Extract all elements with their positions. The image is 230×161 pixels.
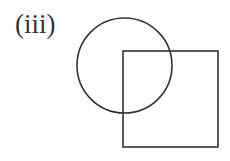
venn-figure — [0, 0, 230, 161]
circle-shape — [77, 18, 172, 113]
square-shape — [123, 51, 218, 147]
